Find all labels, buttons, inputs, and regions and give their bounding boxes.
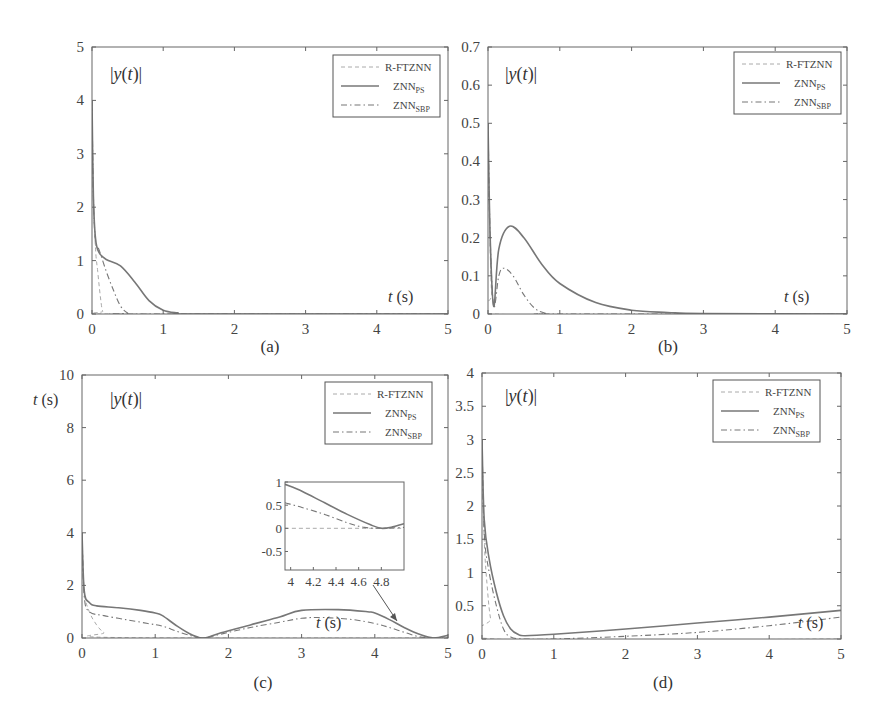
x-tick-label: 2 bbox=[622, 646, 630, 662]
x-tick-label: 0 bbox=[78, 645, 86, 661]
inset-x-tick-label: 4.8 bbox=[373, 574, 389, 589]
x-tick-label: 5 bbox=[444, 645, 452, 661]
y-tick-label: 0 bbox=[467, 631, 475, 647]
y-tick-label: 1 bbox=[77, 253, 85, 269]
panel-label: (b) bbox=[658, 337, 678, 356]
inset-zoom: 44.24.44.64.810.50-0.5 bbox=[261, 475, 404, 621]
x-axis-label: t (s) bbox=[316, 614, 341, 632]
x-tick-label: 5 bbox=[843, 321, 851, 337]
y-tick-label: 0.5 bbox=[455, 598, 474, 614]
y-tick-label: 0.3 bbox=[461, 192, 480, 208]
legend: R-FTZNNZNNPSZNNSBP bbox=[713, 380, 820, 442]
panel-label: (d) bbox=[653, 673, 673, 692]
y-tick-label: 3.5 bbox=[455, 398, 474, 414]
legend: R-FTZNNZNNPSZNNSBP bbox=[333, 55, 440, 117]
series-znn-sbp bbox=[488, 123, 847, 314]
x-tick-label: 1 bbox=[151, 645, 159, 661]
x-tick-label: 1 bbox=[556, 321, 564, 337]
x-tick-label: 0 bbox=[88, 321, 96, 337]
x-axis-label: t (s) bbox=[388, 288, 413, 306]
y-tick-label: 2.5 bbox=[455, 465, 474, 481]
y-tick-label: 3 bbox=[77, 146, 85, 162]
x-tick-label: 5 bbox=[837, 646, 845, 662]
x-tick-label: 1 bbox=[550, 646, 558, 662]
legend-label: R-FTZNN bbox=[765, 386, 812, 398]
panel-label: (a) bbox=[261, 337, 280, 356]
y-tick-label: 3 bbox=[467, 432, 475, 448]
y-tick-label: 0 bbox=[67, 630, 75, 646]
x-tick-label: 4 bbox=[371, 645, 379, 661]
series-znn-sbp bbox=[92, 100, 448, 314]
figure-canvas: 012345012345|y(t)|t (s)R-FTZNNZNNPSZNNSB… bbox=[0, 0, 882, 715]
x-tick-label: 2 bbox=[628, 321, 636, 337]
y-tick-label: 2 bbox=[77, 199, 85, 215]
inset-y-tick-label: 0.5 bbox=[266, 498, 282, 513]
inset-x-tick-label: 4.6 bbox=[351, 574, 368, 589]
x-tick-label: 0 bbox=[484, 321, 492, 337]
y-tick-label: 4 bbox=[77, 92, 85, 108]
x-tick-label: 2 bbox=[231, 321, 239, 337]
y-tick-label: 0.6 bbox=[461, 77, 480, 93]
y-tick-label: 6 bbox=[67, 472, 75, 488]
y-axis-label: |y(t)| bbox=[505, 64, 537, 85]
x-tick-label: 2 bbox=[225, 645, 233, 661]
y-tick-label: 4 bbox=[467, 365, 475, 381]
y-tick-label: 2 bbox=[67, 577, 75, 593]
subplot-b: 01234500.10.20.30.40.50.60.7|y(t)|t (s)R… bbox=[461, 39, 851, 356]
x-tick-label: 3 bbox=[298, 645, 306, 661]
panel-label: (c) bbox=[254, 673, 273, 692]
x-tick-label: 4 bbox=[765, 646, 773, 662]
legend-label: R-FTZNN bbox=[377, 388, 424, 400]
inset-x-tick-label: 4 bbox=[287, 574, 294, 589]
y-axis-label: |y(t)| bbox=[110, 64, 142, 85]
x-tick-label: 5 bbox=[444, 321, 452, 337]
x-tick-label: 3 bbox=[302, 321, 310, 337]
side-axis-label: t (s) bbox=[33, 391, 58, 409]
y-tick-label: 0 bbox=[77, 306, 85, 322]
x-tick-label: 0 bbox=[478, 646, 486, 662]
x-tick-label: 3 bbox=[694, 646, 702, 662]
y-axis-label: |y(t)| bbox=[110, 389, 142, 410]
x-axis-label: t (s) bbox=[784, 288, 809, 306]
x-tick-label: 4 bbox=[373, 321, 381, 337]
y-tick-label: 0.4 bbox=[461, 153, 480, 169]
x-tick-label: 1 bbox=[159, 321, 167, 337]
series-r-ftznn bbox=[467, 123, 847, 315]
y-tick-label: 4 bbox=[67, 525, 75, 541]
legend: R-FTZNNZNNPSZNNSBP bbox=[325, 382, 432, 444]
y-tick-label: 1.5 bbox=[455, 531, 474, 547]
inset-x-tick-label: 4.4 bbox=[328, 574, 345, 589]
inset-y-tick-label: 1 bbox=[276, 475, 283, 490]
y-tick-label: 5 bbox=[77, 39, 85, 55]
series-znn-ps bbox=[482, 440, 841, 636]
plot-area bbox=[468, 440, 841, 641]
x-tick-label: 4 bbox=[771, 321, 779, 337]
inset-x-tick-label: 4.2 bbox=[305, 574, 321, 589]
subplot-a: 012345012345|y(t)|t (s)R-FTZNNZNNPSZNNSB… bbox=[77, 39, 452, 356]
series-r-ftznn bbox=[468, 440, 841, 641]
plot-area bbox=[467, 123, 847, 315]
inset-y-tick-label: -0.5 bbox=[261, 544, 282, 559]
y-axis-label: |y(t)| bbox=[505, 386, 537, 407]
y-tick-label: 10 bbox=[59, 367, 74, 383]
subplot-c: 0123450246810|y(t)|t (s)R-FTZNNZNNPSZNNS… bbox=[33, 367, 452, 692]
series-znn-ps bbox=[488, 123, 847, 314]
x-axis-label: t (s) bbox=[798, 614, 823, 632]
series-znn-sbp bbox=[482, 440, 841, 640]
legend-label: R-FTZNN bbox=[786, 58, 833, 70]
y-tick-label: 1 bbox=[467, 565, 475, 581]
y-tick-label: 0.1 bbox=[461, 268, 480, 284]
y-tick-label: 8 bbox=[67, 420, 75, 436]
series-znn-ps bbox=[92, 100, 448, 314]
subplot-d: 01234500.511.522.533.54|y(t)|t (s)R-FTZN… bbox=[455, 365, 845, 692]
legend-label: R-FTZNN bbox=[385, 61, 432, 73]
y-tick-label: 0.2 bbox=[461, 230, 480, 246]
x-tick-label: 3 bbox=[700, 321, 708, 337]
plot-area bbox=[80, 100, 448, 314]
y-tick-label: 0.7 bbox=[461, 39, 480, 55]
y-tick-label: 0 bbox=[473, 306, 481, 322]
y-tick-label: 0.5 bbox=[461, 115, 480, 131]
y-tick-label: 2 bbox=[467, 498, 475, 514]
inset-y-tick-label: 0 bbox=[276, 521, 283, 536]
legend: R-FTZNNZNNPSZNNSBP bbox=[734, 52, 841, 114]
